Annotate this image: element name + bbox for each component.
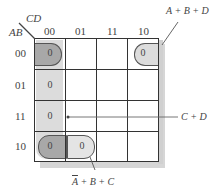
group-label-c-d: C + D — [181, 111, 207, 122]
group-label-a-b-d: A + B + D — [166, 5, 209, 16]
group-label-abar-b-c: A + B + C — [72, 176, 114, 187]
label-rest: + B + C — [78, 176, 114, 187]
callout-lines — [0, 0, 221, 195]
